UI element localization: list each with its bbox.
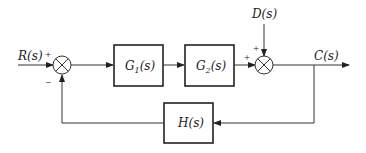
- sum1-plus-sign: +: [45, 48, 51, 60]
- sum2-top-plus-sign: +: [253, 42, 259, 54]
- sum2-left-plus-sign: +: [244, 51, 250, 63]
- svg-text:H(s): H(s): [177, 116, 204, 130]
- sum1-minus-sign: −: [45, 76, 51, 88]
- input-label: R(s): [17, 49, 43, 63]
- output-label: C(s): [314, 49, 339, 63]
- block-g2: G2(s): [185, 45, 234, 86]
- block-h: H(s): [164, 103, 213, 143]
- svg-text:G1(s): G1(s): [125, 59, 156, 75]
- disturbance-label: D(s): [251, 7, 277, 21]
- summing-junction-1: [53, 56, 71, 74]
- svg-text:G2(s): G2(s): [196, 59, 227, 75]
- block-diagram: R(s) + − G1(s) G2(s) + D(s) + C(s) H(s): [0, 0, 366, 153]
- summing-junction-2: [255, 56, 273, 74]
- block-g1: G1(s): [114, 45, 163, 86]
